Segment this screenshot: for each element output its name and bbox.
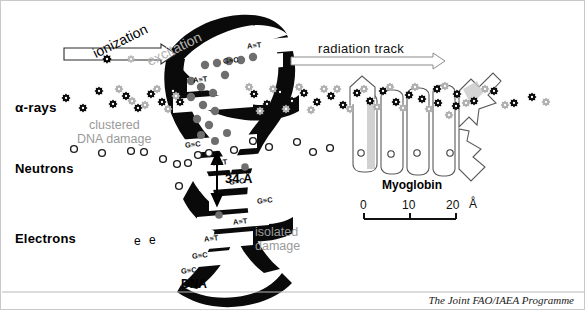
base-pair-upper-7: G≡C [257,195,273,206]
scale-bar [364,213,456,219]
base-pair-upper-1: A≡T [247,40,262,50]
scale-tick-0: 0 [360,198,367,212]
clustered-damage-label-line1: clustered [89,118,140,132]
diagram-artwork [1,1,585,310]
base-pair-upper-2: G≡C [223,55,239,66]
isolated-damage-label-line1: isolated [255,225,298,239]
legend-particle-icons [97,49,161,69]
radiation-dna-diagram: ionization excitation radiation track α-… [0,0,585,310]
myoglobin-label: Myoglobin [382,178,442,192]
base-pair-lower-4: G≡C [181,265,197,276]
base-pair-upper-4: G≡C [185,139,201,150]
base-pair-lower-2: A≡T [204,233,219,243]
scale-unit-angstrom: Å [469,197,477,211]
electron-mark-1: e [134,234,141,248]
isolated-damage-label-line2: damage [255,239,300,253]
base-pair-lower-3: G≡C [192,250,208,261]
dna-label: DNA [181,277,207,291]
row-label-electrons: Electrons [15,231,76,246]
footer-credit: The Joint FAO/IAEA Programme [428,294,574,306]
base-pair-upper-3: A≡T [193,74,208,84]
clustered-damage-label-line2: DNA damage [77,132,151,146]
base-pair-upper-6: G≡C [229,176,245,187]
base-pair-lower-1: A≡T [233,216,248,226]
radiation-track-label: radiation track [318,41,404,56]
scale-tick-10: 10 [402,198,415,212]
electron-mark-2: e [149,233,156,247]
base-pair-upper-5: A≡T [213,157,228,167]
scale-tick-20: 20 [446,198,459,212]
row-label-neutrons: Neutrons [15,161,74,176]
row-label-alpha-rays: α-rays [15,100,57,115]
